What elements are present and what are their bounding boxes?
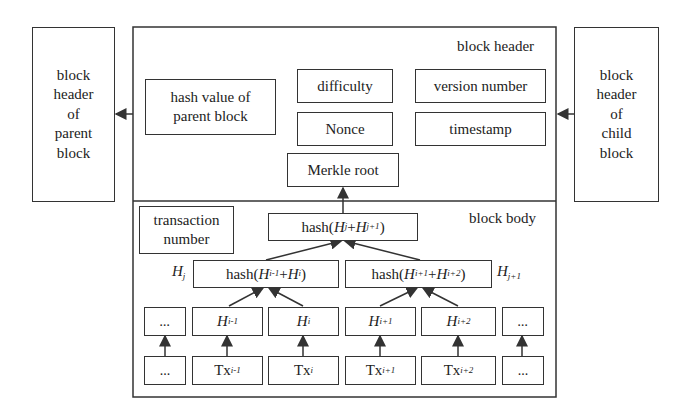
sub: i+2 bbox=[457, 316, 470, 327]
fn: ) bbox=[460, 265, 465, 284]
var: H bbox=[356, 218, 367, 237]
leaf-hash-box: Hi+2 bbox=[421, 307, 496, 336]
child-line: of bbox=[610, 105, 623, 125]
nonce-box: Nonce bbox=[297, 112, 393, 146]
leaf-text: H bbox=[447, 312, 458, 331]
var: H bbox=[497, 263, 508, 279]
tx-box: Txi+2 bbox=[421, 356, 496, 385]
tx-box: Txi bbox=[268, 356, 339, 385]
tx-text: Tx bbox=[444, 361, 461, 380]
fn: ) bbox=[380, 218, 385, 237]
var: H bbox=[436, 265, 447, 284]
sub: i bbox=[311, 365, 314, 376]
hash-parent-box: hash value of parent block bbox=[145, 79, 276, 135]
tx-number-line: number bbox=[164, 230, 210, 249]
tx-text: Tx bbox=[366, 361, 383, 380]
var: H bbox=[404, 265, 415, 284]
child-line: child bbox=[602, 124, 632, 144]
hash-parent-line: parent block bbox=[173, 107, 248, 126]
hash-parent-line: hash value of bbox=[171, 88, 251, 107]
tx-box: Txi-1 bbox=[192, 356, 263, 385]
var: H bbox=[334, 218, 345, 237]
tx-box: Txi+1 bbox=[345, 356, 416, 385]
tx-number-line: transaction bbox=[154, 211, 220, 230]
leaf-hash-box: Hi bbox=[268, 307, 339, 336]
tx-box: ... bbox=[502, 356, 544, 385]
block-header-title: block header bbox=[457, 38, 534, 55]
block-body-title: block body bbox=[469, 210, 536, 227]
leaf-text: H bbox=[369, 312, 380, 331]
sub: j bbox=[183, 271, 186, 281]
child-block-header: block header of child block bbox=[574, 27, 659, 202]
tx-text: Tx bbox=[214, 361, 231, 380]
leaf-text: ... bbox=[160, 313, 171, 331]
fn: hash( bbox=[372, 265, 405, 284]
parent-block-header: block header of parent block bbox=[32, 27, 115, 202]
left-hash-tag: Hj bbox=[172, 263, 185, 281]
right-hash-box: hash(Hi+1+Hi+2) bbox=[345, 260, 492, 288]
leaf-hash-box: ... bbox=[502, 307, 544, 336]
fn: ) bbox=[301, 265, 306, 284]
leaf-text: H bbox=[217, 312, 228, 331]
right-hash-tag: Hj+1 bbox=[497, 263, 521, 281]
leaf-text: H bbox=[297, 312, 308, 331]
sub: i+2 bbox=[460, 365, 473, 376]
tx-text: Tx bbox=[294, 361, 311, 380]
child-line: block bbox=[600, 144, 633, 164]
child-line: block bbox=[600, 66, 633, 86]
leaf-hash-box: Hi-1 bbox=[192, 307, 263, 336]
op: + bbox=[347, 218, 355, 237]
sub: i-1 bbox=[228, 316, 238, 327]
var: H bbox=[288, 265, 299, 284]
sub: i+1 bbox=[379, 316, 392, 327]
sub: i+1 bbox=[415, 268, 428, 279]
sub: j+1 bbox=[508, 271, 521, 281]
difficulty-box: difficulty bbox=[297, 69, 393, 103]
tx-box: ... bbox=[144, 356, 186, 385]
fn: hash( bbox=[301, 218, 334, 237]
root-hash-box: hash(Hj+Hj+1) bbox=[268, 213, 418, 241]
parent-line: block bbox=[57, 66, 90, 86]
parent-line: of bbox=[67, 105, 80, 125]
sub: i-1 bbox=[231, 365, 241, 376]
sub: j+1 bbox=[367, 221, 380, 232]
var: H bbox=[258, 265, 269, 284]
sub: i+1 bbox=[382, 365, 395, 376]
tx-text: ... bbox=[518, 362, 529, 380]
op: + bbox=[279, 265, 287, 284]
left-hash-box: hash(Hi-1+Hi) bbox=[193, 260, 339, 288]
sub: i-1 bbox=[269, 268, 279, 279]
parent-line: parent bbox=[55, 124, 92, 144]
leaf-text: ... bbox=[518, 313, 529, 331]
sub: i bbox=[308, 316, 311, 327]
var: H bbox=[172, 263, 183, 279]
tx-text: ... bbox=[160, 362, 171, 380]
sub: i+2 bbox=[447, 268, 460, 279]
child-line: header bbox=[597, 85, 637, 105]
parent-line: block bbox=[57, 144, 90, 164]
fn: hash( bbox=[226, 265, 259, 284]
leaf-hash-box: ... bbox=[144, 307, 186, 336]
timestamp-box: timestamp bbox=[415, 112, 546, 146]
leaf-hash-box: Hi+1 bbox=[345, 307, 416, 336]
version-number-box: version number bbox=[415, 69, 546, 103]
parent-line: header bbox=[54, 85, 94, 105]
transaction-number-box: transaction number bbox=[139, 206, 234, 254]
merkle-root-box: Merkle root bbox=[287, 153, 399, 187]
